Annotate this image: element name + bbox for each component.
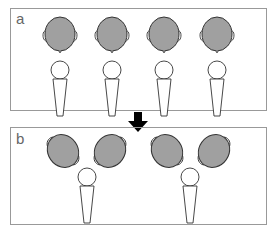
down-arrow-icon [128,112,148,132]
panel-b-heads [40,128,236,175]
panel-b-mics [78,168,199,223]
panel-a-heads [43,17,234,53]
diagram [0,0,273,233]
panel-a-mics [51,61,226,116]
